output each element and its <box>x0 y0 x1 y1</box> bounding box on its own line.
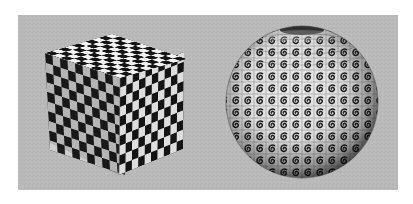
render-canvas <box>0 0 413 204</box>
render-scene: 3D render of a checkerboard-textured cub… <box>0 0 413 204</box>
checkered-cube <box>45 34 187 175</box>
